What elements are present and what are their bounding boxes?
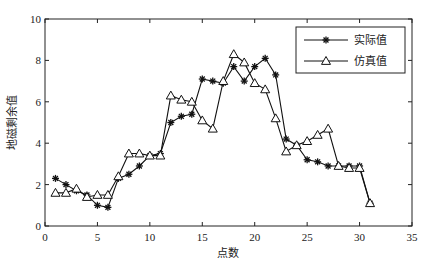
x-axis-label: 点数	[217, 247, 239, 260]
star-marker-icon	[136, 162, 143, 169]
star-marker-icon	[230, 63, 237, 70]
star-marker-icon	[167, 119, 174, 126]
y-tick-label: 2	[36, 179, 42, 191]
star-marker-icon	[325, 162, 332, 169]
x-tick-label: 30	[354, 231, 366, 243]
star-marker-icon	[241, 78, 248, 85]
star-marker-icon	[94, 202, 101, 209]
star-marker-icon	[104, 204, 111, 211]
legend-box	[296, 27, 405, 73]
star-marker-icon	[178, 113, 185, 120]
x-tick-label: 15	[197, 231, 209, 243]
y-tick-label: 8	[36, 54, 42, 66]
x-tick-label: 35	[407, 231, 419, 243]
x-tick-label: 10	[144, 231, 156, 243]
x-tick-label: 0	[42, 231, 48, 243]
x-tick-label: 20	[249, 231, 261, 243]
star-marker-icon	[125, 171, 132, 178]
y-tick-label: 0	[36, 220, 42, 232]
legend-label-actual: 实际值	[354, 33, 387, 47]
line-chart: 051015202530350246810 点数 地磁剩余值 实际值 仿真值	[0, 0, 430, 274]
y-axis-label: 地磁剩余值	[5, 95, 19, 150]
star-marker-icon	[209, 78, 216, 85]
x-tick-label: 25	[302, 231, 314, 243]
y-tick-label: 10	[30, 13, 42, 25]
legend: 实际值 仿真值	[296, 27, 405, 73]
star-marker-icon	[62, 181, 69, 188]
star-marker-icon	[323, 37, 330, 44]
star-marker-icon	[314, 158, 321, 165]
star-marker-icon	[199, 76, 206, 83]
star-marker-icon	[188, 111, 195, 118]
y-tick-label: 6	[36, 96, 42, 108]
y-tick-label: 4	[36, 137, 42, 149]
x-tick-label: 5	[95, 231, 101, 243]
legend-label-simulated: 仿真值	[354, 54, 387, 68]
star-marker-icon	[52, 175, 59, 182]
